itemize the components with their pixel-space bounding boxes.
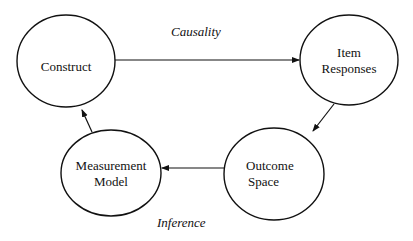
inference-label: Inference xyxy=(157,215,206,231)
arrow-measurement-model-to-construct xyxy=(82,110,92,132)
construct-label: Construct xyxy=(30,59,102,75)
causality-label: Causality xyxy=(171,24,221,40)
item-responses-label-line2: Responses xyxy=(300,61,398,77)
outcome-space-label-line2: Space xyxy=(246,174,306,190)
item-responses-label-line1: Item xyxy=(300,45,398,61)
construct-label-line1: Construct xyxy=(41,59,92,74)
outcome-space-label: Outcome Space xyxy=(244,158,306,190)
arrow-item-responses-to-outcome-space xyxy=(313,104,334,131)
measurement-model-label-line1: Measurement xyxy=(61,158,161,174)
measurement-model-label: Measurement Model xyxy=(61,158,161,190)
outcome-space-label-line1: Outcome xyxy=(246,158,306,174)
measurement-model-label-line2: Model xyxy=(61,174,161,190)
item-responses-label: Item Responses xyxy=(300,45,398,77)
